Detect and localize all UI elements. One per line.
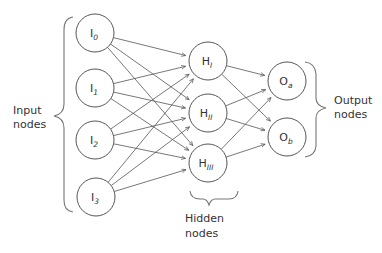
input-nodes-label-line1: Input	[13, 104, 42, 117]
edge-I3-to-HI	[108, 79, 193, 183]
edge-I0-to-HI	[113, 38, 185, 56]
node-I0: I0	[76, 14, 114, 52]
edge-I3-to-HIII	[114, 170, 186, 192]
edge-I1-to-HII	[114, 92, 186, 108]
node-HI: HI	[189, 42, 227, 80]
output-nodes-label-line1: Output	[334, 94, 373, 107]
node-HIII: HIII	[189, 144, 227, 182]
edge-I1-to-HI	[114, 66, 186, 83]
edge-I0-to-HII	[111, 44, 190, 100]
neural-network-diagram: I0I1I2I3HIHIIHIIIOaOb Input nodes Hidden…	[0, 0, 382, 253]
hidden-nodes-label-line2: nodes	[185, 227, 218, 240]
network-nodes: I0I1I2I3HIHIIHIIIOaOb	[76, 14, 306, 216]
node-I1: I1	[76, 69, 114, 107]
hidden-brace	[190, 191, 238, 205]
node-I2: I2	[76, 121, 114, 159]
input-nodes-label-line2: nodes	[13, 118, 46, 131]
edge-HI-to-Oa	[226, 66, 264, 76]
edge-I2-to-HII	[114, 118, 186, 135]
edge-I2-to-HIII	[114, 144, 186, 159]
edge-HIII-to-Oa	[221, 98, 271, 150]
node-I3: I3	[77, 178, 115, 216]
node-Oa: Oa	[268, 62, 306, 100]
output-nodes-label-line2: nodes	[334, 108, 367, 121]
edge-I3-to-HII	[111, 127, 189, 186]
input-brace	[54, 17, 73, 212]
node-HII: HII	[189, 94, 227, 132]
edge-HIII-to-Ob	[226, 144, 265, 157]
node-Ob: Ob	[268, 118, 306, 156]
output-brace	[305, 62, 326, 157]
hidden-nodes-label-line1: Hidden	[185, 212, 224, 225]
edge-HII-to-Oa	[226, 90, 266, 106]
edge-I2-to-HI	[111, 74, 190, 129]
